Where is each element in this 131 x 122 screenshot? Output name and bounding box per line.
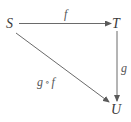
- commutative-diagram: S T U f g g∘f: [0, 0, 131, 122]
- arrow-g-compose-f: [16, 33, 109, 102]
- label-g-compose-f: g∘f: [37, 76, 55, 88]
- label-f: f: [64, 8, 67, 20]
- compose-operator: ∘: [43, 77, 51, 87]
- label-g: g: [121, 62, 127, 74]
- node-s: S: [6, 17, 13, 31]
- node-t: T: [112, 17, 120, 31]
- node-u: U: [111, 103, 121, 117]
- label-f-part: f: [51, 75, 54, 89]
